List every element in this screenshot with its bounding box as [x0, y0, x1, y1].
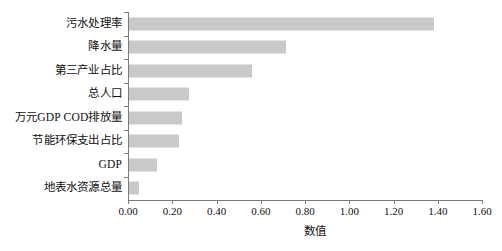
bar	[129, 182, 139, 195]
bar-chart: 污水处理率降水量第三产业占比总人口万元GDP COD排放量节能环保支出占比GDP…	[0, 0, 502, 251]
bar-row: 总人口	[128, 83, 482, 107]
y-axis-tick	[124, 83, 128, 84]
y-axis-tick	[124, 130, 128, 131]
x-axis-tick-label: 0.00	[118, 206, 137, 217]
y-axis-tick	[124, 177, 128, 178]
x-axis-tick-label: 0.40	[207, 206, 226, 217]
x-axis-tick-label: 1.60	[472, 206, 491, 217]
x-axis-title: 数值	[0, 226, 502, 238]
x-axis-tick-label: 1.40	[428, 206, 447, 217]
x-axis-tick	[349, 200, 350, 204]
bar-row: 污水处理率	[128, 12, 482, 36]
category-label: 污水处理率	[66, 18, 122, 30]
y-axis-tick	[124, 106, 128, 107]
category-label: 第三产业占比	[55, 65, 122, 77]
y-axis-tick	[124, 59, 128, 60]
bar	[129, 111, 182, 124]
x-axis-tick	[438, 200, 439, 204]
bar	[129, 17, 434, 30]
x-axis-tick	[172, 200, 173, 204]
bar-row: 节能环保支出占比	[128, 130, 482, 154]
bar-row: 地表水资源总量	[128, 177, 482, 201]
category-label: GDP	[98, 159, 122, 171]
x-axis-tick-label: 0.60	[251, 206, 270, 217]
x-axis-tick	[261, 200, 262, 204]
bar	[129, 88, 189, 101]
category-label: 万元GDP COD排放量	[15, 112, 122, 124]
x-axis-tick	[217, 200, 218, 204]
x-axis-title-label: 数值	[176, 225, 326, 237]
bar-row: 第三产业占比	[128, 59, 482, 83]
plot-area: 污水处理率降水量第三产业占比总人口万元GDP COD排放量节能环保支出占比GDP…	[128, 12, 482, 200]
y-axis-tick	[124, 36, 128, 37]
bar	[129, 41, 286, 54]
x-axis-tick-label: 1.20	[384, 206, 403, 217]
x-axis-tick-label: 0.20	[163, 206, 182, 217]
bar-row: 万元GDP COD排放量	[128, 106, 482, 130]
category-label: 地表水资源总量	[44, 183, 122, 195]
bar	[129, 64, 252, 77]
x-axis-tick	[305, 200, 306, 204]
y-axis-tick	[124, 153, 128, 154]
bar	[129, 158, 157, 171]
bar-row: GDP	[128, 153, 482, 177]
y-axis-tick	[124, 12, 128, 13]
x-axis-tick	[482, 200, 483, 204]
category-label: 节能环保支出占比	[32, 136, 122, 148]
category-label: 总人口	[88, 89, 122, 101]
x-axis-tick-label: 0.80	[295, 206, 314, 217]
bar-row: 降水量	[128, 36, 482, 60]
category-label: 降水量	[88, 42, 122, 54]
bar	[129, 135, 179, 148]
x-axis-tick	[128, 200, 129, 204]
x-axis-tick-label: 1.00	[340, 206, 359, 217]
x-axis-tick	[394, 200, 395, 204]
